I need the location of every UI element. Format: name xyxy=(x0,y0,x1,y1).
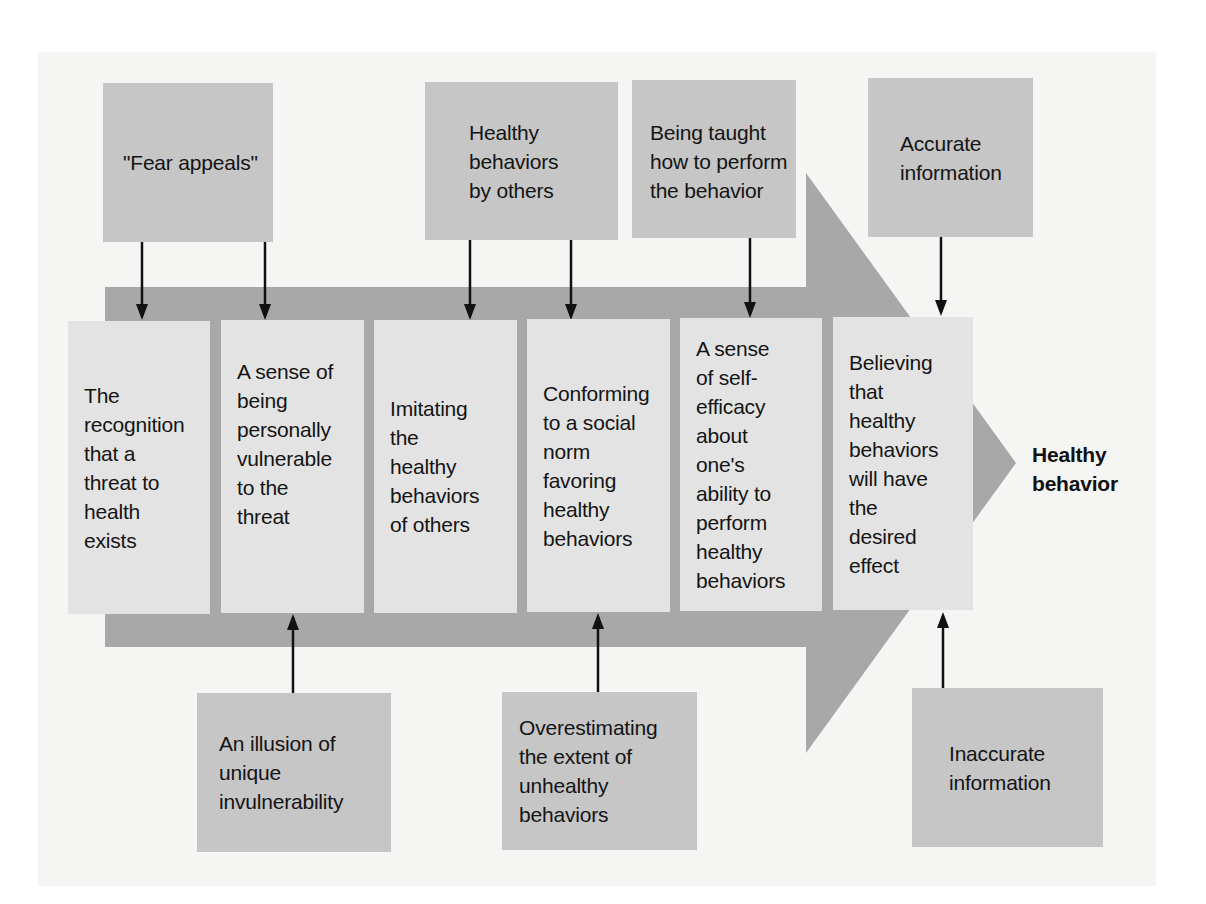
factor-label: An illusion of unique invulnerability xyxy=(219,729,343,816)
factor-label: Accurate information xyxy=(900,129,1002,187)
factor-overestimating-unhealthy: Overestimating the extent of unhealthy b… xyxy=(502,692,697,850)
step-conforming-to-norm: Conforming to a social norm favoring hea… xyxy=(527,319,670,612)
step-label: The recognition that a threat to health … xyxy=(84,381,185,555)
factor-healthy-behaviors-by-others: Healthy behaviors by others xyxy=(425,82,618,240)
factor-label: Being taught how to perform the behavior xyxy=(650,118,787,205)
factor-label: Overestimating the extent of unhealthy b… xyxy=(519,713,657,829)
factor-being-taught: Being taught how to perform the behavior xyxy=(632,80,796,238)
step-label: Believing that healthy behaviors will ha… xyxy=(849,348,938,580)
step-label: A sense of being personally vulnerable t… xyxy=(237,357,333,531)
outcome-healthy-behavior: Healthy behavior xyxy=(1032,440,1118,498)
step-self-efficacy: A sense of self- efficacy about one's ab… xyxy=(680,318,822,611)
step-imitating-others: Imitating the healthy behaviors of other… xyxy=(374,320,517,613)
step-label: Conforming to a social norm favoring hea… xyxy=(543,379,650,553)
factor-fear-appeals: "Fear appeals" xyxy=(103,83,273,242)
factor-label: Healthy behaviors by others xyxy=(469,118,558,205)
step-personal-vulnerability: A sense of being personally vulnerable t… xyxy=(221,320,364,613)
factor-illusion-of-invulnerability: An illusion of unique invulnerability xyxy=(197,693,391,852)
step-label: A sense of self- efficacy about one's ab… xyxy=(696,334,785,595)
factor-inaccurate-information: Inaccurate information xyxy=(912,688,1103,847)
factor-label: Inaccurate information xyxy=(949,739,1051,797)
factor-accurate-information: Accurate information xyxy=(868,78,1033,237)
step-believing-effectiveness: Believing that healthy behaviors will ha… xyxy=(833,317,973,610)
step-label: Imitating the healthy behaviors of other… xyxy=(390,394,479,539)
factor-label: "Fear appeals" xyxy=(123,148,258,177)
step-recognition-of-threat: The recognition that a threat to health … xyxy=(68,321,210,614)
